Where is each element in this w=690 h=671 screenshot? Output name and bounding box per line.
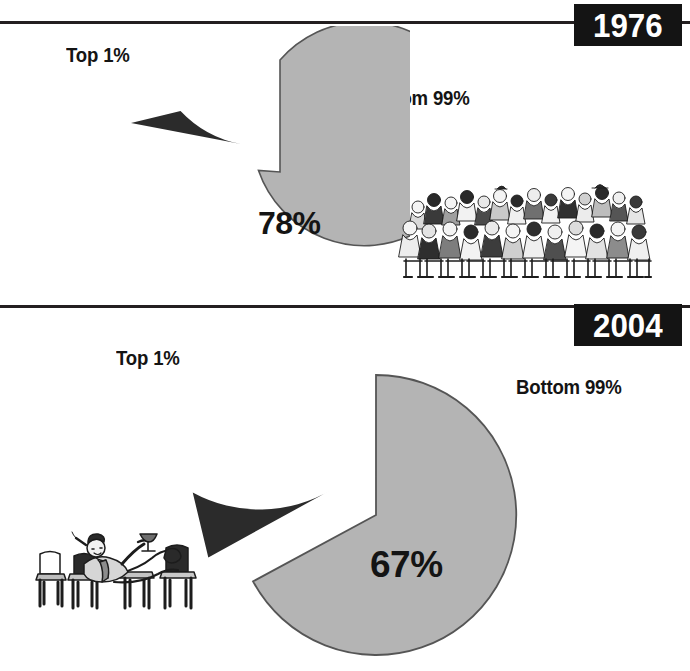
slice-value-bottom-2004: 67% — [370, 544, 443, 585]
rich-man-on-chairs-illustration — [26, 512, 226, 624]
infographic-page: 1976 Top 1% Bottom 99% 22% 78% — [0, 0, 690, 671]
pie-slice-bottom-99-2004 — [253, 375, 516, 655]
slice-value-bottom-1976: 78% — [258, 205, 321, 241]
pie-chart-1976: 22% 78% — [110, 26, 410, 300]
slice-value-top-1976: 22% — [195, 66, 248, 96]
pie-slice-top-1-1976 — [131, 102, 245, 144]
panel-1976: 1976 Top 1% Bottom 99% 22% 78% — [0, 0, 690, 300]
year-label: 2004 — [593, 308, 663, 342]
year-label: 1976 — [593, 8, 663, 42]
slice-value-top-2004: 33% — [231, 393, 290, 426]
crowd-of-people-illustration — [396, 176, 658, 286]
year-badge-2004: 2004 — [574, 304, 682, 346]
year-badge-1976: 1976 — [574, 4, 682, 46]
